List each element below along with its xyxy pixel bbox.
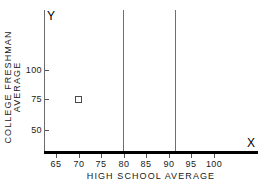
x-tick-85 (146, 154, 147, 158)
x-tick-label-80: 80 (112, 160, 136, 169)
reference-line-1 (123, 10, 124, 152)
y-tick-50 (45, 130, 49, 131)
x-tick-95 (191, 154, 192, 158)
x-tick-70 (79, 154, 80, 158)
x-tick-label-100: 100 (202, 160, 226, 169)
reference-line-2 (175, 10, 176, 152)
x-tick-label-65: 65 (44, 160, 68, 169)
x-tick-75 (101, 154, 102, 158)
x-tick-label-75: 75 (89, 160, 113, 169)
y-axis-title: COLLEGE FRESHMAN AVERAGE (4, 12, 22, 162)
y-tick-75 (45, 99, 49, 100)
x-tick-label-95: 95 (179, 160, 203, 169)
x-axis-end-label: X (247, 137, 256, 149)
x-tick-80 (124, 154, 125, 158)
data-point-marker (75, 96, 82, 103)
x-tick-90 (169, 154, 170, 158)
x-tick-label-85: 85 (134, 160, 158, 169)
y-tick-100 (45, 70, 49, 71)
x-tick-100 (214, 154, 215, 158)
x-axis-title: HIGH SCHOOL AVERAGE (44, 172, 258, 181)
x-tick-label-90: 90 (157, 160, 181, 169)
x-axis-line (44, 151, 258, 154)
y-axis-line (44, 10, 45, 154)
x-tick-label-70: 70 (67, 160, 91, 169)
x-tick-65 (56, 154, 57, 158)
scatter-chart: Y 100 75 50 X 65 70 75 80 85 90 95 100 H… (0, 0, 270, 191)
y-axis-end-label: Y (47, 10, 56, 22)
